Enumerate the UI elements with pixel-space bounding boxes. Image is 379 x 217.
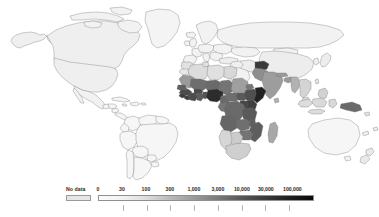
country-nicaragua[interactable] [112,108,119,113]
region-group-north-america [11,7,196,120]
country-uk[interactable] [189,38,197,47]
country-australia[interactable] [308,118,360,155]
country-germany-poland[interactable] [198,44,214,53]
legend: No data 0 30 100 300 1,000 3,000 10,000 … [0,182,379,217]
country-western-sahara[interactable] [179,69,189,75]
country-madagascar[interactable] [268,122,278,143]
country-papua-new-guinea[interactable] [340,102,362,112]
country-cuba[interactable] [112,97,130,102]
country-fiji[interactable] [373,127,378,131]
country-korea[interactable] [313,58,319,65]
legend-tick-300: 300 [166,186,175,192]
country-libya[interactable] [207,65,225,80]
country-new-zealand-south[interactable] [360,155,370,164]
legend-color-ramp[interactable]: 0 30 100 300 1,000 3,000 10,000 30,000 1… [98,186,314,201]
country-ellesmere-island[interactable] [110,7,132,15]
country-kazakhstan[interactable] [231,47,260,57]
legend-tick-30: 30 [119,186,125,192]
region-group-south-america [120,115,178,180]
legend-no-data-label: No data [66,186,85,192]
country-taiwan[interactable] [315,79,319,84]
country-somalia[interactable] [254,87,266,103]
legend-no-data-swatch[interactable] [66,195,91,201]
country-iceland[interactable] [186,32,196,38]
country-tasmania[interactable] [344,156,351,161]
world-map-svg[interactable] [0,0,379,182]
country-norway-sweden-finland[interactable] [196,21,218,44]
country-indonesia-sulawesi[interactable] [329,99,337,108]
country-new-caledonia[interactable] [362,131,369,136]
country-nepal-bhutan[interactable] [276,73,288,77]
legend-tick-1000: 1,000 [187,186,200,192]
region-group-oceania [298,98,378,164]
legend-gradient-bar[interactable] [98,195,314,201]
country-ireland[interactable] [184,41,190,46]
legend-tick-10000: 10,000 [234,186,250,192]
country-chile[interactable] [126,150,134,179]
country-philippines[interactable] [318,88,328,99]
country-angola[interactable] [220,115,238,132]
country-thailand-indochina[interactable] [299,79,311,98]
country-indonesia-borneo[interactable] [312,98,327,107]
country-puerto-rico[interactable] [141,103,146,105]
world-map-panel[interactable] [0,0,379,182]
country-jamaica[interactable] [122,104,127,106]
country-japan[interactable] [320,53,331,67]
country-new-zealand-north[interactable] [366,148,374,156]
legend-tick-0: 0 [97,186,100,192]
country-italy[interactable] [203,53,210,62]
legend-inner: No data 0 30 100 300 1,000 3,000 10,000 … [66,186,314,210]
country-hispaniola[interactable] [130,102,140,106]
country-greenland[interactable] [145,9,180,48]
legend-tick-30000: 30,000 [258,186,274,192]
country-indonesia-java[interactable] [308,109,325,114]
country-uruguay[interactable] [151,162,159,167]
country-south-africa[interactable] [226,143,251,160]
legend-tick-3000: 3,000 [211,186,224,192]
country-alaska[interactable] [11,32,47,48]
legend-tick-100: 100 [142,186,151,192]
country-solomon-islands[interactable] [364,112,370,116]
country-bolivia[interactable] [132,146,148,158]
country-russia[interactable] [217,22,344,48]
choropleth-figure: No data 0 30 100 300 1,000 3,000 10,000 … [0,0,379,217]
country-sri-lanka[interactable] [274,98,279,103]
country-guyanas[interactable] [156,116,169,124]
country-indonesia-sumatra[interactable] [298,99,313,107]
legend-tick-100000: 100,000 [283,186,302,192]
country-myanmar[interactable] [291,77,300,93]
